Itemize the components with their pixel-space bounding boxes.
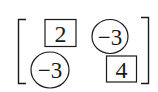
- matrix-cell-r1c2: −3: [92, 20, 128, 54]
- matrix-cell-r1c1: 2: [45, 20, 76, 48]
- cell-value: 2: [55, 21, 67, 47]
- cell-value: −3: [98, 25, 122, 50]
- cell-value: 4: [116, 57, 128, 83]
- right-bracket: [141, 18, 149, 84]
- left-bracket: [19, 20, 27, 84]
- matrix-diagram: 2 −3 −3 4: [0, 0, 158, 92]
- cell-value: −3: [38, 58, 62, 83]
- matrix-cell-r2c1: −3: [31, 52, 69, 88]
- matrix-cell-r2c2: 4: [107, 56, 137, 83]
